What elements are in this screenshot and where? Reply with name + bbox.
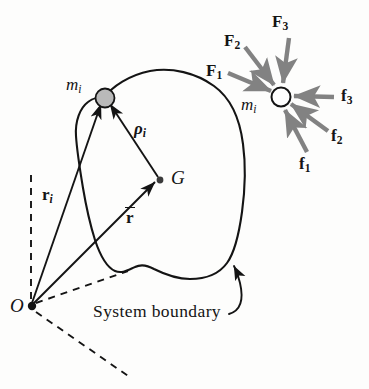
label-r-i-symbol: r	[42, 185, 50, 204]
label-f1-subscript: 1	[305, 162, 311, 175]
label-mass-mi-free-subscript: i	[253, 103, 256, 116]
label-f2-subscript: 2	[337, 134, 343, 147]
caption-system-boundary: System boundary	[93, 303, 221, 321]
label-F3-symbol: F	[272, 12, 282, 31]
label-mass-mi-body: mi	[66, 76, 82, 93]
label-origin-O: O	[10, 296, 24, 315]
label-f2-symbol: f	[331, 126, 337, 145]
label-vector-r-i: ri	[42, 186, 53, 203]
label-f1-symbol: f	[299, 154, 305, 173]
figure-canvas	[0, 0, 369, 389]
particle-mi-free	[272, 88, 291, 107]
label-f3-subscript: 3	[347, 94, 353, 107]
force-arrow-f2	[291, 104, 328, 131]
label-f3-symbol: f	[341, 86, 347, 105]
label-force-f1: f1	[299, 155, 310, 172]
system-boundary-leader	[229, 266, 242, 314]
force-arrow-f1	[285, 110, 307, 152]
vector-rho-i	[110, 104, 158, 177]
label-force-f2: f2	[331, 127, 342, 144]
label-mass-mi-body-subscript: i	[78, 83, 81, 96]
label-vector-r-bar: r	[126, 209, 134, 226]
label-force-F2: F2	[224, 32, 240, 49]
reference-axes-dashed	[31, 175, 131, 378]
label-force-F3: F3	[272, 13, 288, 30]
label-r-i-subscript: i	[50, 193, 53, 206]
particle-mi-in-body	[96, 89, 115, 108]
label-rho-subscript: i	[143, 127, 146, 140]
force-arrow-F2	[245, 47, 274, 85]
label-force-f3: f3	[341, 87, 352, 104]
force-arrow-F3	[283, 38, 289, 83]
label-vector-rho-i: ρi	[134, 120, 146, 137]
label-centroid-G: G	[171, 168, 185, 187]
label-rho-symbol: ρ	[134, 119, 143, 138]
label-mass-mi-body-symbol: m	[66, 75, 78, 94]
label-mass-mi-free: mi	[241, 96, 257, 113]
centroid-point-G	[157, 177, 164, 184]
label-mass-mi-free-symbol: m	[241, 95, 253, 114]
label-r-bar-symbol: r	[126, 209, 134, 226]
particle-system-figure: mi ρi G ri r O System boundary mi F1 F2 …	[0, 0, 369, 389]
label-F1-subscript: 1	[216, 69, 222, 82]
label-F1-symbol: F	[206, 61, 216, 80]
label-F2-symbol: F	[224, 31, 234, 50]
label-F2-subscript: 2	[234, 39, 240, 52]
label-force-F1: F1	[206, 62, 222, 79]
origin-point-O	[28, 302, 36, 310]
force-arrow-f3	[294, 96, 334, 97]
axis-lower-right-dashed	[36, 312, 131, 378]
label-F3-subscript: 3	[282, 20, 288, 33]
